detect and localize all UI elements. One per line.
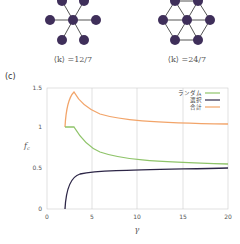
svg-text:0: 0 (38, 205, 42, 212)
series-selected (65, 168, 228, 209)
svg-text:選択: 選択 (190, 96, 202, 104)
svg-text:15: 15 (179, 213, 187, 220)
hex-graph-nodes (158, 0, 215, 45)
svg-text:合計: 合計 (190, 103, 202, 111)
svg-text:1: 1 (38, 123, 42, 130)
svg-text:5: 5 (90, 213, 94, 220)
x-axis-label: γ (135, 225, 140, 234)
svg-text:ランダム: ランダム (178, 89, 202, 97)
caption-left: ⟨k⟩ =12/7 (54, 55, 92, 64)
svg-text:0: 0 (45, 213, 49, 220)
legend: ランダム 選択 合計 (178, 89, 220, 111)
svg-text:0.5: 0.5 (32, 164, 42, 171)
panel-label: (c) (5, 72, 16, 81)
svg-text:10: 10 (133, 213, 141, 220)
figure: ⟨k⟩ =12/7 ⟨k⟩ =24/7 (c) 1.5 1 0.5 0 0 5 … (0, 0, 240, 244)
y-axis-label: fc (23, 141, 30, 151)
svg-text:1.5: 1.5 (32, 84, 42, 91)
series-total (65, 92, 228, 127)
caption-right: ⟨k⟩ =24/7 (168, 55, 206, 64)
y-ticks: 1.5 1 0.5 0 (32, 84, 42, 212)
star-graph-nodes (45, 0, 101, 45)
x-ticks: 0 5 10 15 20 (45, 213, 232, 220)
svg-text:20: 20 (224, 213, 232, 220)
series-random (65, 127, 228, 164)
